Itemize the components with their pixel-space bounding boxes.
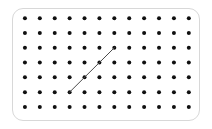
grid-dot [172,16,176,20]
grid-dot [157,61,161,65]
grid-dot [68,16,72,20]
grid-dot [127,90,131,94]
dot-grid-card [12,8,200,121]
grid-dot [23,31,27,35]
grid-dot [53,46,57,50]
grid-dot [127,75,131,79]
dot-grid-dots [23,16,191,109]
grid-dot [83,31,87,35]
grid-dot [112,31,116,35]
grid-dot [157,16,161,20]
grid-dot [142,90,146,94]
grid-dot [157,31,161,35]
grid-dot [53,61,57,65]
grid-dot [112,75,116,79]
grid-dot [23,46,27,50]
grid-dot [172,75,176,79]
grid-dot [68,75,72,79]
grid-dot [97,31,101,35]
grid-dot [157,90,161,94]
grid-dot [53,31,57,35]
grid-dot [187,90,191,94]
grid-dot [23,105,27,109]
diagonal-segment [70,48,115,92]
grid-dot [97,75,101,79]
grid-dot [68,105,72,109]
grid-dot [112,90,116,94]
dot-grid-canvas [13,9,200,121]
grid-dot [53,16,57,20]
grid-dot [142,105,146,109]
dot-grid-diagram-root [0,0,212,129]
grid-dot [142,16,146,20]
grid-dot [187,75,191,79]
grid-dot [187,16,191,20]
grid-dot [83,61,87,65]
grid-dot [157,105,161,109]
grid-dot [157,46,161,50]
grid-dot [127,31,131,35]
grid-dot [83,90,87,94]
grid-dot [53,105,57,109]
grid-dot [83,46,87,50]
grid-dot [38,90,42,94]
grid-dot [97,16,101,20]
grid-dot [187,31,191,35]
grid-dot [83,105,87,109]
grid-dot [187,105,191,109]
diagonal-segment-layer [70,48,115,92]
grid-dot [172,31,176,35]
grid-dot [97,90,101,94]
grid-dot [97,46,101,50]
grid-dot [38,16,42,20]
grid-dot [83,16,87,20]
grid-dot [38,61,42,65]
grid-dot [172,46,176,50]
grid-dot [112,105,116,109]
grid-dot [112,16,116,20]
grid-dot [38,75,42,79]
grid-dot [23,75,27,79]
grid-dot [127,61,131,65]
grid-dot [187,61,191,65]
grid-dot [97,105,101,109]
grid-dot [127,105,131,109]
grid-dot [38,46,42,50]
grid-dot [172,90,176,94]
grid-dot [127,46,131,50]
grid-dot [23,61,27,65]
grid-dot [112,61,116,65]
grid-dot [68,31,72,35]
grid-dot [53,90,57,94]
grid-dot [38,31,42,35]
grid-dot [127,16,131,20]
grid-dot [53,75,57,79]
grid-dot [142,31,146,35]
grid-dot [68,46,72,50]
grid-dot [142,46,146,50]
grid-dot [23,16,27,20]
grid-dot [142,61,146,65]
grid-dot [68,61,72,65]
grid-dot [157,75,161,79]
grid-dot [172,61,176,65]
grid-dot [172,105,176,109]
grid-dot [38,105,42,109]
grid-dot [23,90,27,94]
grid-dot [142,75,146,79]
grid-dot [187,46,191,50]
